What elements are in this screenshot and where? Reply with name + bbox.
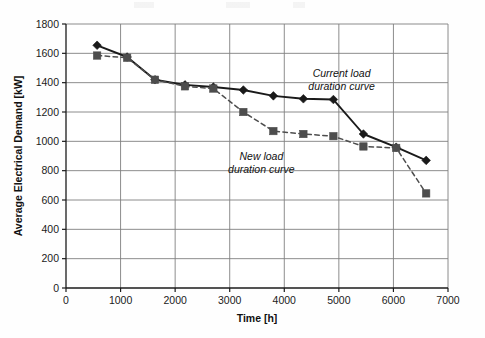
data-point-marker: New load duration curve: (1630 h, 1420 k… xyxy=(151,76,158,83)
data-point-marker: New load duration curve: (5450 h, 965 kW… xyxy=(360,143,367,150)
data-point-marker: New load duration curve: (2180 h, 1375 k… xyxy=(181,83,188,90)
y-tick-label: 1600 xyxy=(36,47,60,59)
x-tick-label: 1000 xyxy=(109,294,133,306)
y-tick-label: 600 xyxy=(41,194,59,206)
x-tick-label: 6000 xyxy=(382,294,406,306)
data-point-marker: New load duration curve: (2700 h, 1360 k… xyxy=(210,85,217,92)
x-tick-label: 5000 xyxy=(327,294,351,306)
chart-figure: 0200400600800100012001400160018000100020… xyxy=(0,0,485,338)
x-tick-label: 0 xyxy=(63,294,69,306)
x-tick-label: 7000 xyxy=(436,294,460,306)
new-load-annotation-line2: duration curve xyxy=(228,163,295,175)
y-axis-title: Average Electrical Demand [kW] xyxy=(12,76,24,237)
new-load-annotation-line1: New load xyxy=(239,150,284,162)
y-tick-label: 200 xyxy=(41,252,59,264)
current-load-annotation: Current loadduration curve xyxy=(308,67,375,92)
data-point-marker: New load duration curve: (6050 h, 955 kW… xyxy=(392,144,399,151)
x-tick-label: 2000 xyxy=(163,294,187,306)
load-duration-chart: 0200400600800100012001400160018000100020… xyxy=(0,0,485,338)
data-point-marker: New load duration curve: (4900 h, 1035 k… xyxy=(330,133,337,140)
data-point-marker: New load duration curve: (6600 h, 645 kW… xyxy=(422,190,429,197)
current-load-annotation-line2: duration curve xyxy=(308,80,375,92)
data-point-marker: New load duration curve: (3800 h, 1070 k… xyxy=(270,127,277,134)
x-tick-label: 4000 xyxy=(273,294,297,306)
y-tick-label: 0 xyxy=(53,282,59,294)
x-axis-title: Time [h] xyxy=(237,312,278,324)
y-tick-label: 1400 xyxy=(36,76,60,88)
y-tick-label: 1200 xyxy=(36,106,60,118)
data-point-marker: New load duration curve: (570 h, 1585 kW… xyxy=(93,52,100,59)
y-tick-label: 800 xyxy=(41,164,59,176)
x-tick-label: 3000 xyxy=(218,294,242,306)
y-tick-label: 1000 xyxy=(36,135,60,147)
data-point-marker: New load duration curve: (4350 h, 1050 k… xyxy=(300,130,307,137)
data-point-marker: New load duration curve: (3250 h, 1200 k… xyxy=(240,108,247,115)
current-load-annotation-line1: Current load xyxy=(313,67,372,79)
y-tick-label: 400 xyxy=(41,223,59,235)
y-tick-label: 1800 xyxy=(36,18,60,30)
data-point-marker: New load duration curve: (1120 h, 1570 k… xyxy=(123,54,130,61)
